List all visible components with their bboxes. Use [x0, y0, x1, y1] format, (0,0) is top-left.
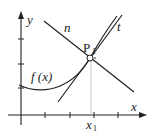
svg-text:x: x — [85, 117, 92, 132]
curve-label: f (x) — [31, 69, 52, 84]
x1-tick-label: x 1 — [85, 117, 97, 133]
normal-label: n — [64, 20, 71, 35]
tangent-label: t — [117, 19, 121, 34]
point-p1-label: P 1 — [83, 40, 96, 56]
x-axis-label: x — [130, 99, 137, 114]
y-axis-label: y — [25, 12, 33, 27]
svg-text:1: 1 — [92, 47, 96, 56]
svg-text:P: P — [83, 40, 90, 55]
y-axis-arrow-icon — [18, 11, 24, 19]
tangent-normal-diagram: y x n t f (x) P 1 x 1 — [0, 0, 151, 133]
x-axis-arrow-icon — [139, 112, 147, 118]
svg-text:1: 1 — [93, 124, 97, 133]
right-angle-dot-icon — [94, 57, 96, 59]
axes — [8, 17, 142, 125]
